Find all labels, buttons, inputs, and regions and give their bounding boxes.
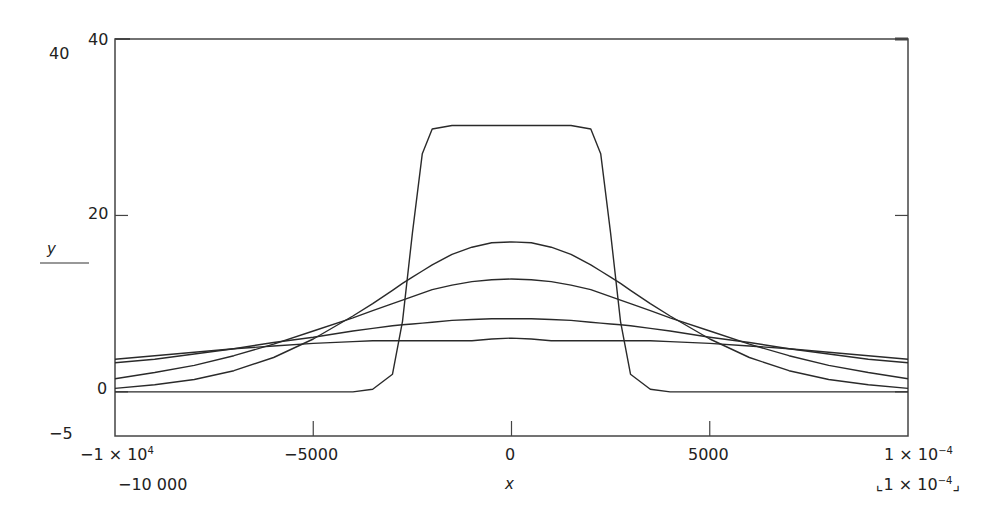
x-max-sci-mantissa: 1 × 10 [884, 445, 938, 464]
y-tick-label-40: 40 [88, 30, 108, 49]
x-tick-label-minus5000: −5000 [284, 445, 338, 464]
chart-canvas [0, 0, 990, 521]
data-series [115, 126, 908, 392]
plot-frame [115, 39, 908, 436]
y-tick-label-40-outer: 40 [49, 44, 69, 63]
y-tick-label-minus5: −5 [49, 424, 73, 443]
x-tick-label-0: 0 [505, 445, 515, 464]
x-max-plain-bracket: ⌟ [952, 475, 960, 494]
x-min-sci-mantissa: −1 × 10 [80, 445, 148, 464]
y-axis-title: y [47, 240, 56, 258]
x-max-sci-exponent: −4 [938, 445, 953, 456]
x-tick-label-min-sci: −1 × 104 [80, 445, 154, 464]
line-curve-1-pulse [115, 126, 908, 392]
x-tick-label-5000: 5000 [688, 445, 729, 464]
x-max-plain-mantissa: ⌞1 × 10 [876, 475, 938, 494]
line-curve-2 [115, 242, 908, 389]
x-tick-label-max-sci: 1 × 10−4 [884, 445, 953, 464]
x-tick-label-min-plain: −10 000 [118, 475, 187, 494]
x-axis-title: x [505, 475, 514, 493]
y-tick-label-20: 20 [88, 204, 108, 223]
x-max-plain-exponent: −4 [938, 475, 953, 486]
x-min-sci-exponent: 4 [148, 445, 154, 456]
line-curve-3 [115, 279, 908, 379]
y-tick-label-0: 0 [97, 379, 107, 398]
axis-ticks [115, 215, 908, 436]
x-tick-label-max-plain: ⌞1 × 10−4⌟ [876, 475, 960, 494]
